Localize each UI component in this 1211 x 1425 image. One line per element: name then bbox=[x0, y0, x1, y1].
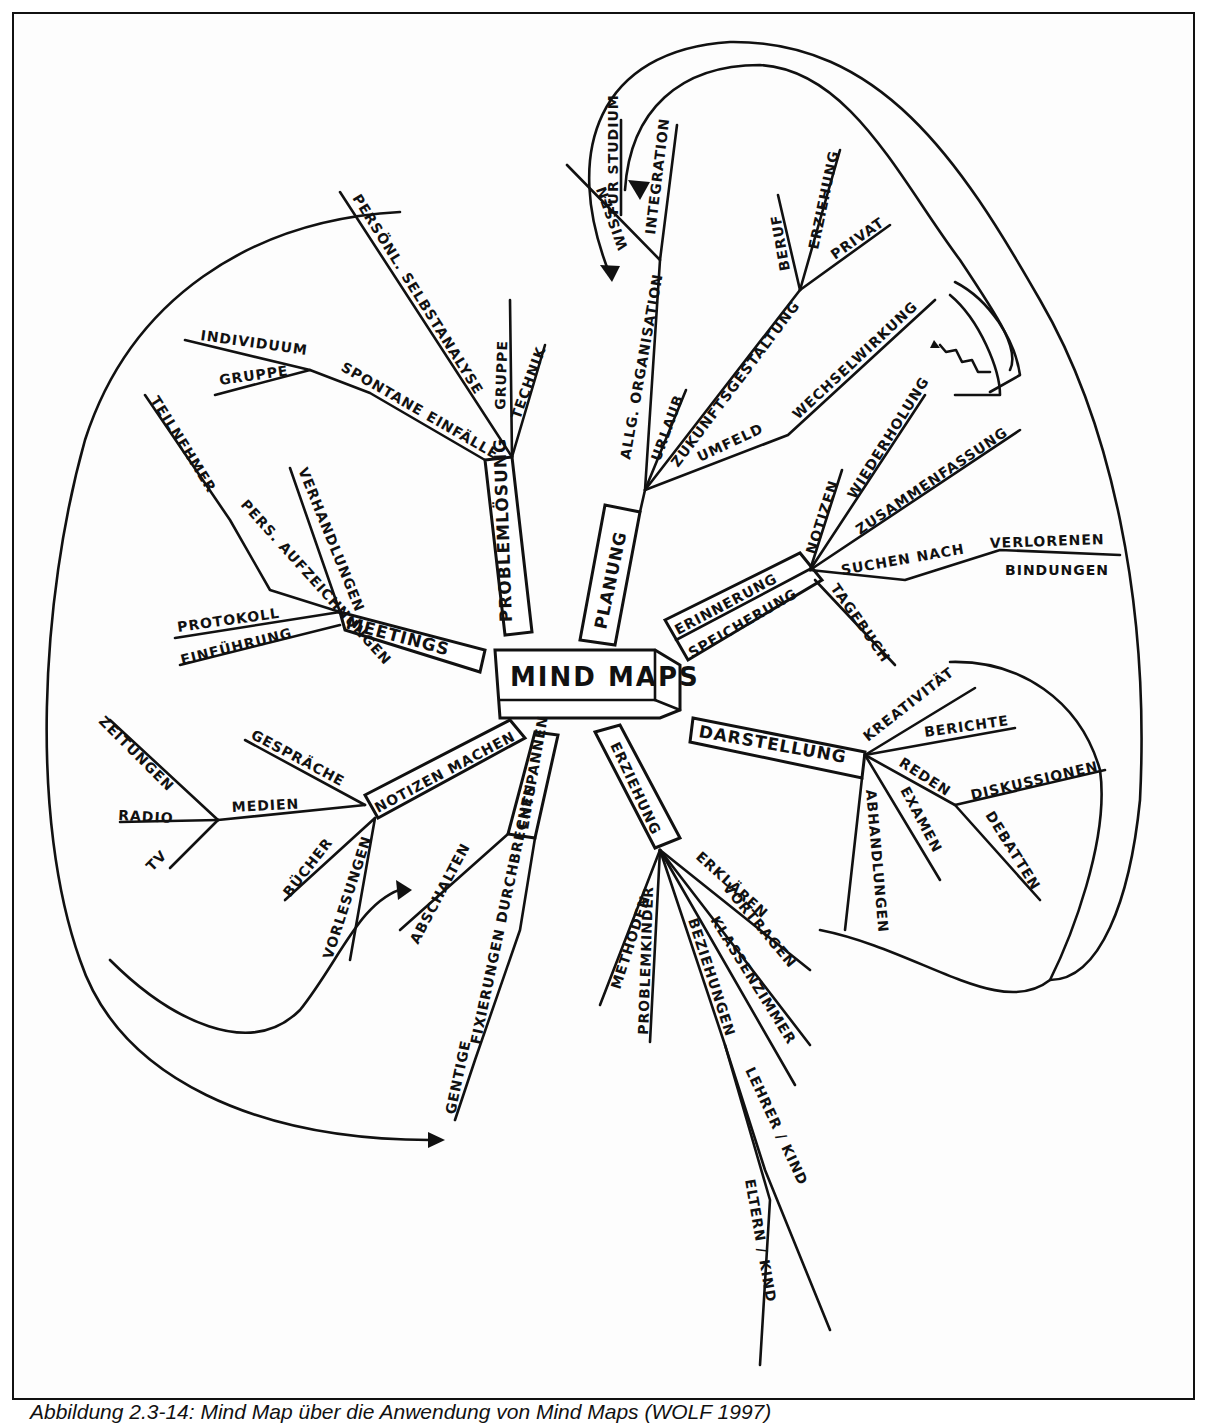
figure-caption: Abbildung 2.3-14: Mind Map über die Anwe… bbox=[30, 1400, 771, 1424]
arrow-head-icon bbox=[600, 265, 620, 282]
branch-problemloesung[interactable]: PROBLEMLÖSUNG PERSÖNL. SELBSTANALYSE GRU… bbox=[185, 191, 549, 635]
loop-left bbox=[47, 212, 430, 1140]
svg-text:ABHANDLUNGEN: ABHANDLUNGEN bbox=[863, 789, 891, 934]
svg-text:DEBATTEN: DEBATTEN bbox=[982, 808, 1043, 893]
svg-text:FÜR STUDIUM: FÜR STUDIUM bbox=[604, 94, 621, 215]
svg-text:TAGEBUCH: TAGEBUCH bbox=[828, 581, 894, 666]
mind-map-diagram: MIND MAPS PLANUNG ALLG. ORGANISATION URL… bbox=[0, 0, 1211, 1425]
loop-left-inner bbox=[110, 888, 405, 1033]
svg-text:ABSCHALTEN: ABSCHALTEN bbox=[407, 840, 474, 946]
svg-text:LEHRER / KIND: LEHRER / KIND bbox=[742, 1065, 811, 1188]
svg-text:ELTERN / KIND: ELTERN / KIND bbox=[742, 1178, 779, 1304]
svg-text:BÜCHER: BÜCHER bbox=[279, 834, 336, 900]
svg-text:PRIVAT: PRIVAT bbox=[828, 214, 888, 262]
central-node[interactable]: MIND MAPS bbox=[495, 650, 700, 718]
svg-text:INDIVIDUUM: INDIVIDUUM bbox=[200, 327, 309, 358]
svg-text:ZEITUNGEN: ZEITUNGEN bbox=[96, 713, 178, 795]
arrow-head-icon bbox=[396, 880, 412, 900]
branch-meetings[interactable]: MEETINGS VERHANDLUNGEN PERS. AUFZEICHNUN… bbox=[145, 393, 485, 672]
svg-text:TECHNIK: TECHNIK bbox=[508, 344, 549, 421]
svg-text:PERSÖNL. SELBSTANALYSE: PERSÖNL. SELBSTANALYSE bbox=[349, 191, 487, 398]
branch-erziehung[interactable]: ERZIEHUNG METHODEN PROBLEMKINDER BEZIEHU… bbox=[595, 725, 830, 1365]
central-label: MIND MAPS bbox=[510, 662, 700, 692]
svg-text:TEILNEHMER: TEILNEHMER bbox=[147, 393, 219, 495]
svg-text:NOTIZEN MACHEN: NOTIZEN MACHEN bbox=[372, 728, 518, 816]
svg-text:VERLORENEN: VERLORENEN bbox=[990, 531, 1105, 551]
svg-text:GRUPPE: GRUPPE bbox=[492, 340, 510, 410]
svg-text:INTEGRATION: INTEGRATION bbox=[642, 117, 672, 236]
svg-text:SUCHEN NACH: SUCHEN NACH bbox=[840, 540, 966, 577]
svg-text:NOTIZEN: NOTIZEN bbox=[803, 478, 842, 556]
svg-text:BINDUNGEN: BINDUNGEN bbox=[1005, 562, 1109, 578]
branch-erinnerung[interactable]: ERINNERUNG SPEICHERUNG NOTIZEN WIEDERHOL… bbox=[665, 374, 1120, 666]
svg-text:DISKUSSIONEN: DISKUSSIONEN bbox=[969, 758, 1100, 803]
loop-darstellung bbox=[820, 662, 1102, 992]
svg-text:GESPRÄCHE: GESPRÄCHE bbox=[249, 727, 348, 790]
svg-text:RADIO: RADIO bbox=[118, 807, 174, 826]
svg-text:FIXIERUNGEN DURCHBRECHEN: FIXIERUNGEN DURCHBRECHEN bbox=[467, 782, 538, 1045]
arrow-head-icon bbox=[428, 1132, 445, 1148]
svg-text:ERZIEHUNG: ERZIEHUNG bbox=[805, 149, 842, 251]
branch-notizen-machen[interactable]: NOTIZEN MACHEN GESPRÄCHE MEDIEN ZEITUNGE… bbox=[96, 713, 525, 961]
svg-text:TV: TV bbox=[143, 847, 170, 874]
